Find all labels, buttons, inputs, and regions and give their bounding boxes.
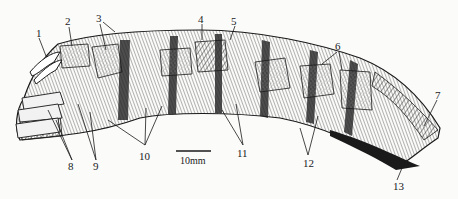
label-11: 11 <box>237 148 248 159</box>
anterior-plates <box>16 92 64 138</box>
label-5: 5 <box>231 16 237 27</box>
label-8: 8 <box>68 161 74 172</box>
label-6: 6 <box>335 41 341 52</box>
label-3: 3 <box>96 13 102 24</box>
scale-bar-label: 10mm <box>180 156 206 166</box>
label-7: 7 <box>435 90 441 101</box>
label-9: 9 <box>93 161 99 172</box>
label-13: 13 <box>393 181 404 192</box>
label-2: 2 <box>65 16 71 27</box>
label-4: 4 <box>198 14 204 25</box>
anatomy-figure: 1 2 3 4 5 6 7 8 9 10 11 12 13 10mm <box>0 0 458 199</box>
label-10: 10 <box>139 151 150 162</box>
label-1: 1 <box>36 28 42 39</box>
label-12: 12 <box>303 158 314 169</box>
